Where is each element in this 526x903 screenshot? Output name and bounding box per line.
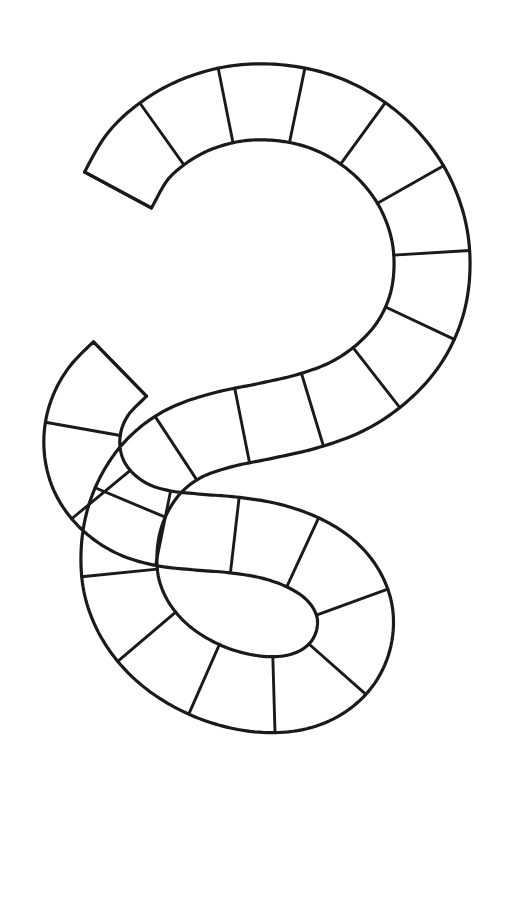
board-canvas <box>0 0 526 903</box>
s-track-svg <box>0 0 526 903</box>
